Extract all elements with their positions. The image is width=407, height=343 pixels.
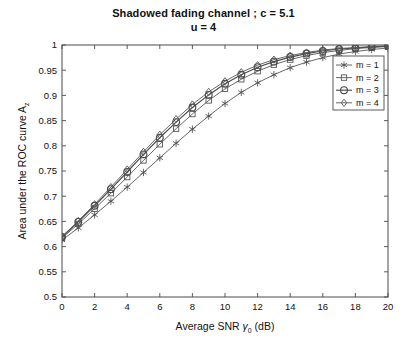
asterisk-marker xyxy=(91,211,97,218)
x-tick-label: 20 xyxy=(383,301,394,312)
legend-item-label: m = 4 xyxy=(356,98,379,108)
page-title: Shadowed fading channel ; c = 5.1 xyxy=(0,6,407,20)
x-tick-label: 16 xyxy=(318,301,329,312)
title-block: Shadowed fading channel ; c = 5.1 u = 4 xyxy=(0,6,407,35)
x-tick-label: 8 xyxy=(190,301,195,312)
asterisk-marker xyxy=(108,198,114,205)
y-tick-label: 0.6 xyxy=(44,241,57,252)
legend-item-label: m = 2 xyxy=(356,73,379,83)
y-tick-label: 0.75 xyxy=(39,165,58,176)
y-tick-label: 0.9 xyxy=(44,90,57,101)
y-tick-label: 0.55 xyxy=(39,266,58,277)
y-tick-label: 0.65 xyxy=(39,216,58,227)
chart-subtitle: u = 4 xyxy=(0,20,407,35)
x-tick-label: 10 xyxy=(220,301,231,312)
x-tick-label: 14 xyxy=(285,301,296,312)
asterisk-marker xyxy=(206,112,212,119)
legend-item-label: m = 1 xyxy=(356,60,379,70)
y-tick-label: 0.95 xyxy=(39,65,58,76)
asterisk-marker xyxy=(238,89,244,96)
x-tick-label: 18 xyxy=(350,301,361,312)
y-tick-label: 0.85 xyxy=(39,115,58,126)
legend: m = 1m = 2m = 3m = 4 xyxy=(333,56,384,110)
x-tick-label: 0 xyxy=(59,301,64,312)
chart-figure: Shadowed fading channel ; c = 5.1 u = 4 … xyxy=(0,0,407,343)
x-axis-title: Average SNR γ0 (dB) xyxy=(176,320,275,334)
y-tick-label: 0.5 xyxy=(44,291,57,302)
y-tick-label: 0.7 xyxy=(44,191,57,202)
y-axis-title: Area under the ROC curve Az xyxy=(16,102,30,240)
y-tick-label: 0.8 xyxy=(44,140,57,151)
y-tick-label: 1 xyxy=(52,39,57,50)
asterisk-marker xyxy=(287,64,293,71)
y-axis-tick-labels: 0.50.550.60.650.70.750.80.850.90.951 xyxy=(39,39,58,302)
asterisk-marker xyxy=(254,79,260,86)
plot-canvas: 02468101214161820 0.50.550.60.650.70.750… xyxy=(0,0,407,343)
asterisk-marker xyxy=(271,71,277,78)
asterisk-marker xyxy=(189,126,195,133)
x-tick-label: 4 xyxy=(125,301,130,312)
legend-item-label: m = 3 xyxy=(356,85,379,95)
asterisk-marker xyxy=(303,59,309,66)
x-axis-tick-labels: 02468101214161820 xyxy=(59,301,393,312)
x-tick-label: 6 xyxy=(157,301,162,312)
x-tick-label: 2 xyxy=(92,301,97,312)
asterisk-marker xyxy=(222,100,228,107)
x-tick-label: 12 xyxy=(252,301,263,312)
